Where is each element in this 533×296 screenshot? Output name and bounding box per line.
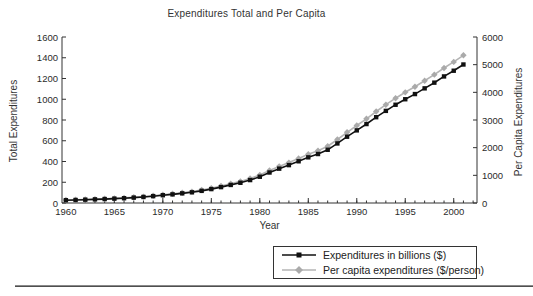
left-tick-label: 1000 xyxy=(37,94,58,105)
square-marker-icon xyxy=(229,183,233,187)
x-tick-label: 1970 xyxy=(152,206,173,217)
right-tick-label: 5000 xyxy=(482,59,503,70)
bottom-horizontal-rule xyxy=(15,285,533,287)
square-marker-icon xyxy=(180,191,184,195)
square-marker-icon xyxy=(161,193,165,197)
right-tick-label: 6000 xyxy=(482,32,503,43)
x-tick-label: 1985 xyxy=(298,206,319,217)
square-marker-icon xyxy=(112,196,116,200)
square-marker-icon xyxy=(93,197,97,201)
right-tick-label: 1000 xyxy=(482,170,503,181)
square-marker-icon xyxy=(306,155,310,159)
square-marker-icon xyxy=(316,152,320,156)
square-marker-icon xyxy=(461,62,465,66)
square-marker-icon xyxy=(325,148,329,152)
right-axis-label: Per Capita Expenditures xyxy=(513,68,524,176)
square-marker-icon xyxy=(199,189,203,193)
square-marker-icon xyxy=(413,92,417,96)
square-marker-icon xyxy=(73,198,77,202)
square-marker-icon xyxy=(384,109,388,113)
square-marker-icon xyxy=(141,195,145,199)
square-marker-icon xyxy=(374,115,378,119)
legend-box: Expenditures in billions ($) Per capita … xyxy=(273,246,477,279)
square-marker-icon xyxy=(267,170,271,174)
square-marker-icon xyxy=(403,97,407,101)
figure-expenditures-chart: Expenditures Total and Per Capita 020040… xyxy=(0,0,533,296)
square-marker-icon xyxy=(335,141,339,145)
x-tick-label: 1980 xyxy=(249,206,270,217)
square-marker-icon xyxy=(209,187,213,191)
left-tick-label: 800 xyxy=(42,115,58,126)
square-marker-icon xyxy=(219,185,223,189)
square-marker-icon xyxy=(170,192,174,196)
square-marker-icon xyxy=(287,163,291,167)
black-square-line-swatch xyxy=(280,250,318,260)
square-marker-icon xyxy=(277,166,281,170)
square-marker-icon xyxy=(132,195,136,199)
right-tick-label: 3000 xyxy=(482,115,503,126)
right-tick-label: 2000 xyxy=(482,142,503,153)
series-line-percapita xyxy=(66,55,464,200)
square-marker-icon xyxy=(83,197,87,201)
square-marker-icon xyxy=(364,122,368,126)
square-marker-icon xyxy=(296,159,300,163)
left-tick-label: 1400 xyxy=(37,52,58,63)
square-marker-icon xyxy=(452,69,456,73)
legend-label-percapita: Per capita expenditures ($/person) xyxy=(323,264,484,276)
square-marker-icon xyxy=(102,197,106,201)
square-marker-icon xyxy=(122,196,126,200)
square-marker-icon xyxy=(432,80,436,84)
legend-item-total: Expenditures in billions ($) xyxy=(274,248,476,262)
square-marker-icon xyxy=(64,198,68,202)
square-marker-icon xyxy=(297,253,302,258)
left-tick-label: 200 xyxy=(42,177,58,188)
x-tick-label: 2000 xyxy=(443,206,464,217)
left-tick-label: 1600 xyxy=(37,32,58,43)
right-tick-label: 4000 xyxy=(482,87,503,98)
left-axis-label: Total Expenditures xyxy=(8,80,19,162)
x-tick-label: 1960 xyxy=(55,206,76,217)
square-marker-icon xyxy=(151,194,155,198)
x-axis-label: Year xyxy=(62,220,477,231)
x-tick-label: 1995 xyxy=(395,206,416,217)
square-marker-icon xyxy=(258,175,262,179)
square-marker-icon xyxy=(238,181,242,185)
gray-diamond-line-swatch xyxy=(280,265,318,275)
legend-label-total: Expenditures in billions ($) xyxy=(323,249,446,261)
square-marker-icon xyxy=(393,103,397,107)
left-tick-label: 1200 xyxy=(37,73,58,84)
x-tick-label: 1975 xyxy=(201,206,222,217)
left-tick-label: 600 xyxy=(42,135,58,146)
square-marker-icon xyxy=(355,128,359,132)
square-marker-icon xyxy=(345,135,349,139)
left-tick-label: 400 xyxy=(42,156,58,167)
square-marker-icon xyxy=(442,74,446,78)
series-line-total xyxy=(66,65,464,201)
legend-item-percapita: Per capita expenditures ($/person) xyxy=(274,263,476,277)
x-tick-label: 1965 xyxy=(104,206,125,217)
square-marker-icon xyxy=(248,178,252,182)
diamond-marker-icon xyxy=(295,266,303,274)
right-tick-label: 0 xyxy=(482,198,487,209)
x-tick-label: 1990 xyxy=(346,206,367,217)
square-marker-icon xyxy=(190,190,194,194)
square-marker-icon xyxy=(422,86,426,90)
